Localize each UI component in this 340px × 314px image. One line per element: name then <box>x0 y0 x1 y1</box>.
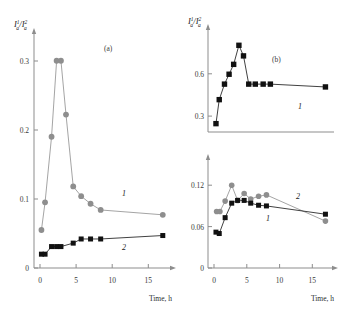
data-point <box>42 199 48 205</box>
data-point <box>242 198 247 203</box>
data-point <box>241 191 247 197</box>
data-point <box>79 236 84 241</box>
data-point <box>54 244 59 249</box>
data-point <box>229 201 234 206</box>
data-point <box>222 198 228 204</box>
panel-b-bot-xticklabel-2: 10 <box>276 276 284 285</box>
data-point <box>323 218 329 224</box>
panel-b-bot-xticklabel-3: 15 <box>309 276 317 285</box>
data-point <box>39 227 45 233</box>
data-point <box>323 212 328 217</box>
panel-b-bot-y-axis-arrow <box>206 154 210 160</box>
panel-b-bot-x-axis-arrow <box>332 266 338 270</box>
data-point <box>223 215 228 220</box>
data-point <box>231 62 236 67</box>
panel-a-y-axis-title: I1a/I2a <box>13 19 28 31</box>
data-point <box>217 209 223 215</box>
data-point <box>58 58 64 64</box>
data-point <box>268 81 273 86</box>
panel-a-y-axis-arrow <box>32 28 36 34</box>
panel-b-bot-series-2-tag: 2 <box>296 192 300 201</box>
data-point <box>264 192 270 198</box>
panel-b-top-series-1-markers <box>213 43 328 127</box>
panel-b-bot-yticklabel-0.06: 0.06 <box>191 223 204 232</box>
panel-a-y-denom-sub: a <box>24 25 27 31</box>
data-point <box>88 201 94 207</box>
panel-b-bot-xticklabel-0: 0 <box>212 276 216 285</box>
data-point <box>235 198 240 203</box>
data-point <box>246 81 251 86</box>
data-point <box>256 193 262 199</box>
data-point <box>70 184 76 190</box>
panel-b-top-y-axis-arrow <box>206 24 210 30</box>
data-point <box>248 201 253 206</box>
data-point <box>264 203 269 208</box>
data-point <box>323 84 328 89</box>
panel-b-bot-yticklabel-0.12: 0.12 <box>191 181 204 190</box>
panel-b-bot-series-1-tag: 1 <box>266 214 270 223</box>
data-point <box>256 203 261 208</box>
data-point <box>226 72 231 77</box>
panel-b-canvas: 0.6 0.3 I1a/I2a (b) 1 0 0.06 0.12 <box>178 0 340 314</box>
data-point <box>71 241 76 246</box>
panel-a-series-2-tag: 2 <box>122 243 126 252</box>
data-point <box>78 193 84 199</box>
data-point <box>43 252 48 257</box>
panel-a-series-1-line <box>41 61 162 230</box>
data-point <box>229 182 235 188</box>
panel-b-bot-xticklabel-1: 5 <box>245 276 249 285</box>
panel-b-bot-yticklabel-0: 0 <box>200 264 204 273</box>
panel-a-xticklabel-3: 15 <box>145 276 153 285</box>
figure-root: 0 0.1 0.2 0.3 0 5 10 15 Time, h I1a/I2a … <box>0 0 340 314</box>
data-point <box>253 81 258 86</box>
data-point <box>160 233 165 238</box>
panel-a-yticklabel-1: 0.1 <box>20 195 30 204</box>
panel-b-x-axis-title: Time, h <box>311 294 334 303</box>
data-point <box>58 244 63 249</box>
data-point <box>98 207 104 213</box>
panel-a-x-axis-arrow <box>170 266 176 270</box>
data-point <box>63 112 69 118</box>
data-point <box>88 236 93 241</box>
data-point <box>217 97 222 102</box>
panel-a-xticklabel-2: 10 <box>108 276 116 285</box>
data-point <box>217 231 222 236</box>
panel-a-x-axis-title: Time, h <box>149 294 172 303</box>
data-point <box>98 236 103 241</box>
data-point <box>49 244 54 249</box>
panel-a-label: (a) <box>104 44 113 53</box>
panel-a: 0 0.1 0.2 0.3 0 5 10 15 Time, h I1a/I2a … <box>0 0 178 314</box>
panel-b-top-yticklabel-0.6: 0.6 <box>195 70 205 79</box>
data-point <box>241 53 246 58</box>
panel-b: 0.6 0.3 I1a/I2a (b) 1 0 0.06 0.12 <box>178 0 340 314</box>
panel-a-yticklabel-3: 0.3 <box>20 57 30 66</box>
data-point <box>222 81 227 86</box>
panel-a-y-denom-sup: 2 <box>25 19 28 25</box>
data-point <box>160 212 166 218</box>
panel-a-canvas: 0 0.1 0.2 0.3 0 5 10 15 Time, h I1a/I2a … <box>0 0 178 314</box>
panel-a-xticklabel-1: 5 <box>74 276 78 285</box>
panel-b-label: (b) <box>272 55 281 64</box>
data-point <box>260 81 265 86</box>
data-point <box>236 43 241 48</box>
panel-b-top-yticklabel-0.3: 0.3 <box>195 112 205 121</box>
panel-a-series-1-tag: 1 <box>122 189 126 198</box>
panel-a-yticklabel-2: 0.2 <box>20 126 30 135</box>
panel-b-y-axis-title: I1a/I2a <box>187 16 202 28</box>
panel-b-y-denom-sup: 2 <box>199 16 202 22</box>
panel-a-yticklabel-0: 0 <box>25 264 29 273</box>
panel-a-xticklabel-0: 0 <box>38 276 42 285</box>
panel-b-bot-series-1-markers <box>213 198 327 236</box>
panel-b-top-series-1-tag: 1 <box>298 102 302 111</box>
data-point <box>49 134 55 140</box>
panel-b-y-denom-sub: a <box>198 22 201 28</box>
data-point <box>213 121 218 126</box>
panel-a-series-1-markers <box>39 58 166 233</box>
